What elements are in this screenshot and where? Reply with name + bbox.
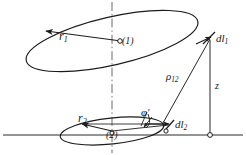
label-r2: r2	[78, 112, 87, 124]
label-rho-subscript: 12	[171, 75, 178, 84]
label-dl1-symbol: dl	[216, 32, 225, 44]
label-point-2: (2)	[106, 130, 118, 140]
label-r1-subscript: 1	[64, 35, 68, 44]
label-point-1: (1)	[122, 36, 134, 46]
lower-loop-chord	[112, 125, 168, 131]
lower-loop-rim-marker	[164, 129, 168, 133]
label-rho12: ρ12	[166, 71, 178, 82]
label-r2-subscript: 2	[83, 117, 87, 126]
label-z: z	[215, 81, 219, 91]
label-dl2-subscript: 2	[184, 123, 188, 132]
label-dl1-subscript: 1	[225, 37, 229, 46]
label-phi-prime: φ′	[141, 107, 150, 118]
label-r2-symbol: r	[78, 111, 83, 125]
label-dl1: dl1	[216, 33, 228, 44]
label-r1: r1	[59, 30, 68, 42]
label-dl2-symbol: dl	[175, 118, 184, 130]
label-dl2: dl2	[175, 119, 187, 130]
axis-foot-marker	[208, 133, 213, 138]
physics-diagram-figure: r1 (1) dl1 ρ12 z r2 φ′ dl2 (2)	[0, 0, 246, 155]
radius-vector-r1	[46, 31, 121, 41]
diagram-canvas	[0, 0, 246, 155]
label-r1-symbol: r	[59, 29, 64, 43]
